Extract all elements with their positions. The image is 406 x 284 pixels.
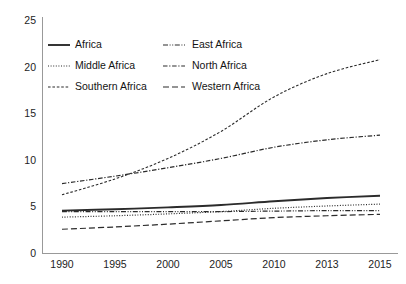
legend-label-middle-africa: Middle Africa [75, 59, 135, 71]
y-tick-label-5: 5 [30, 200, 36, 212]
x-tick-label-2010: 2010 [262, 258, 286, 270]
y-tick-label-0: 0 [30, 247, 36, 259]
legend-label-east-africa: East Africa [192, 38, 242, 50]
x-tick-label-2000: 2000 [156, 258, 180, 270]
x-tick-label-2013: 2013 [315, 258, 339, 270]
chart-figure: 25 20 15 10 5 0 1990 1995 2000 2005 2010… [0, 0, 406, 284]
y-tick-label-10: 10 [24, 154, 36, 166]
y-tick-label-20: 20 [24, 61, 36, 73]
x-tick-label-1995: 1995 [103, 258, 127, 270]
legend-label-north-africa: North Africa [192, 59, 247, 71]
legend-label-africa: Africa [75, 38, 102, 50]
legend-label-southern-africa: Southern Africa [75, 80, 147, 92]
x-tick-label-2015: 2015 [368, 258, 392, 270]
y-tick-label-15: 15 [24, 107, 36, 119]
x-tick-label-2005: 2005 [209, 258, 233, 270]
x-tick-label-1990: 1990 [50, 258, 74, 270]
line-chart: 25 20 15 10 5 0 1990 1995 2000 2005 2010… [0, 0, 406, 284]
y-tick-label-25: 25 [24, 14, 36, 26]
legend-label-western-africa: Western Africa [192, 80, 260, 92]
